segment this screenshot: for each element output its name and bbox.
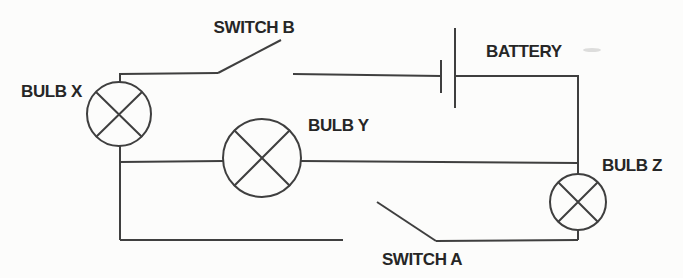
battery-label: BATTERY	[486, 42, 563, 61]
bulb-y-cross	[234, 130, 290, 186]
bulb-y-label: BULB Y	[308, 116, 370, 135]
bulb-x-cross	[96, 92, 142, 137]
bulb-z-symbol	[550, 174, 606, 230]
wire-battery-to-bulbz	[455, 76, 578, 174]
bulb-x-label: BULB X	[21, 82, 83, 101]
wire-bulbz-to-switcha	[436, 240, 578, 241]
scan-smudge	[583, 48, 601, 52]
switch-b-label: SWITCH B	[214, 18, 295, 37]
wire-bulby-to-bulbz	[301, 161, 578, 163]
battery-symbol	[441, 28, 455, 108]
wire-switchb-to-battery	[293, 74, 441, 76]
switch-b-symbol	[218, 40, 281, 73]
wire-bulbx-to-switchb	[120, 73, 218, 83]
circuit-schematic-svg: SWITCH B BATTERY BULB X BULB Y BULB Z SW…	[0, 0, 683, 278]
circuit-diagram: SWITCH B BATTERY BULB X BULB Y BULB Z SW…	[0, 0, 683, 278]
bulb-z-label: BULB Z	[602, 156, 662, 175]
switch-a-label: SWITCH A	[382, 250, 462, 269]
bulb-z-cross	[558, 182, 598, 222]
wire-bulbx-to-bulby	[120, 161, 223, 162]
bulb-y-symbol	[223, 119, 301, 197]
bulb-x-symbol	[87, 82, 151, 146]
switch-a-symbol	[377, 202, 436, 241]
